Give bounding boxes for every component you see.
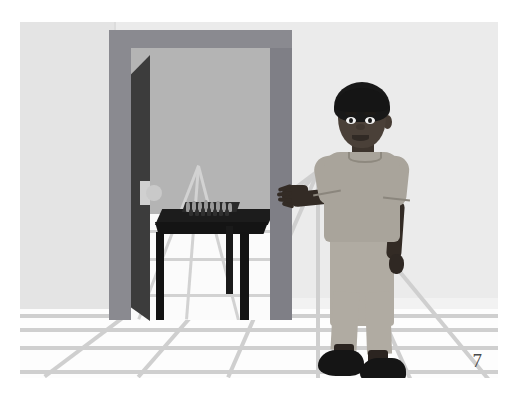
floor-grid-line [20, 346, 498, 350]
right-leg [365, 292, 392, 355]
right-hand [389, 254, 404, 274]
left-eye [346, 117, 356, 124]
pupil [349, 118, 353, 123]
right-eyebrow [364, 112, 376, 115]
chess-piece [189, 209, 193, 216]
door-frame-header [109, 30, 292, 48]
boy[interactable] [288, 82, 418, 378]
illustration [20, 22, 498, 378]
chess-piece [219, 209, 223, 216]
floor-grid-line [20, 328, 498, 332]
table-apron [155, 222, 268, 234]
shirt-collar [348, 152, 382, 163]
inner-floor-grid-line [130, 258, 272, 261]
chess-piece [201, 208, 205, 216]
chess-piece [213, 209, 217, 216]
door-knob-icon[interactable] [146, 185, 162, 201]
doorway-opening [130, 46, 272, 320]
pupil [368, 118, 372, 123]
table-leg-back [226, 226, 233, 294]
page-number: 7 [473, 350, 483, 372]
left-wall [20, 22, 116, 309]
right-eye [365, 117, 375, 124]
mouth [352, 135, 369, 141]
left-eyebrow [345, 112, 357, 115]
chess-piece [207, 208, 211, 216]
inner-floor-grid-line [130, 294, 272, 297]
chess-piece [195, 209, 199, 216]
table-leg-front-right [240, 232, 249, 320]
table-leg-front-left [156, 232, 164, 320]
page: 7 [0, 0, 518, 400]
nose [356, 124, 365, 130]
left-shoe [318, 350, 364, 376]
left-leg [331, 291, 360, 350]
door-frame-left-post [109, 30, 131, 320]
floor-grid-line [20, 370, 498, 374]
right-shoe [360, 358, 406, 378]
chess-piece [225, 209, 229, 216]
